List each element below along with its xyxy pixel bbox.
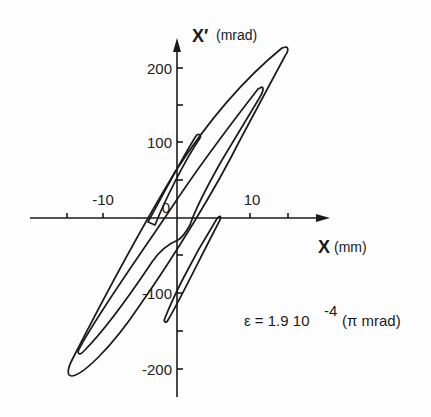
x-tick-label: -10 (92, 191, 114, 208)
y-tick-label: -200 (142, 361, 172, 378)
y-tick-label: 200 (147, 60, 172, 77)
y-tick-label: 100 (147, 134, 172, 151)
emittance-annotation: ε = 1.9 10 -4 (π mrad) (244, 302, 401, 329)
svg-text:X′: X′ (192, 26, 208, 46)
y-axis (177, 48, 183, 397)
svg-text:(mm): (mm) (334, 239, 367, 255)
x-tick-label: 10 (244, 191, 261, 208)
svg-text:X: X (318, 237, 330, 257)
y-tick-label: -100 (142, 285, 172, 302)
svg-text:-4: -4 (324, 302, 337, 319)
svg-text:(π mrad): (π mrad) (342, 312, 401, 329)
svg-text:ε = 1.9 10: ε = 1.9 10 (244, 312, 310, 329)
x-axis-arrow-icon (316, 214, 330, 222)
y-axis-arrow-icon (173, 38, 181, 52)
y-axis-title: X′ (mrad) (192, 26, 257, 46)
x-axis-title: X (mm) (318, 237, 367, 257)
svg-text:(mrad): (mrad) (216, 27, 257, 43)
x-axis (30, 213, 322, 218)
lower-filament (164, 216, 220, 322)
phase-space-chart: -10 0 10 200 100 -100 -200 X′ (mrad) X (… (0, 0, 431, 417)
